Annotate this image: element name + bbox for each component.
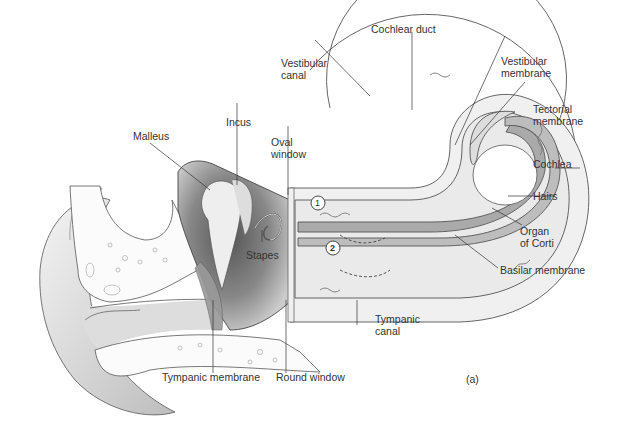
label-oval-window: Oval window (271, 136, 306, 160)
label-tympanic-membrane: Tympanic membrane (162, 371, 260, 383)
label-organ-of-corti: Organ of Corti (520, 225, 554, 249)
label-basilar-membrane: Basilar membrane (500, 264, 585, 276)
label-stapes: Stapes (246, 249, 279, 261)
label-tympanic-canal: Tympanic canal (375, 313, 420, 337)
label-malleus: Malleus (133, 130, 169, 142)
label-cochlear-duct: Cochlear duct (371, 23, 436, 35)
marker-2: 2 (330, 242, 335, 254)
label-cochlea: Cochlea (533, 158, 572, 170)
panel-label: (a) (466, 373, 479, 385)
label-incus: Incus (226, 116, 251, 128)
label-tectorial-membrane: Tectorial membrane (533, 103, 583, 127)
label-hairs: Hairs (533, 190, 558, 202)
marker-1: 1 (315, 197, 320, 209)
label-vestibular-canal: Vestibular canal (281, 57, 327, 81)
label-round-window: Round window (276, 371, 345, 383)
label-vestibular-membrane: Vestibular membrane (501, 55, 551, 79)
